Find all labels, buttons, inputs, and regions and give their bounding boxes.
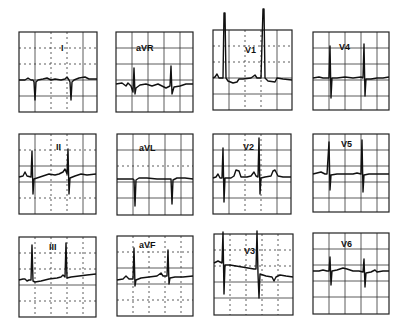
lead-panel-V5: V5 — [313, 134, 389, 212]
lead-panel-II: II — [19, 134, 96, 214]
lead-panel-V4: V4 — [313, 32, 389, 110]
ecg-strip-I — [19, 32, 97, 112]
lead-panel-V2: V2 — [213, 134, 291, 214]
lead-panel-V1: V1 — [213, 30, 292, 110]
lead-label-I: I — [61, 43, 64, 53]
lead-panel-aVF: aVF — [117, 236, 193, 316]
lead-label-aVF: aVF — [139, 240, 156, 250]
lead-panel-aVR: aVR — [116, 32, 193, 112]
lead-label-V4: V4 — [339, 42, 350, 52]
ecg-strip-V1 — [213, 30, 292, 110]
lead-label-aVL: aVL — [139, 143, 156, 153]
lead-label-V3: V3 — [244, 246, 255, 256]
lead-panel-V6: V6 — [313, 233, 389, 314]
ecg-strip-V4 — [313, 32, 389, 110]
ecg-strip-aVR — [116, 32, 193, 112]
lead-panel-I: I — [19, 32, 97, 112]
lead-label-aVR: aVR — [136, 43, 154, 53]
lead-panel-III: III — [19, 237, 96, 317]
lead-panel-aVL: aVL — [117, 134, 193, 215]
lead-label-V6: V6 — [341, 239, 352, 249]
lead-label-V1: V1 — [245, 45, 256, 55]
lead-label-II: II — [56, 142, 61, 152]
lead-panel-V3: V3 — [214, 234, 293, 315]
lead-label-V5: V5 — [341, 139, 352, 149]
lead-label-III: III — [49, 242, 57, 252]
lead-label-V2: V2 — [243, 142, 254, 152]
ecg-strip-III — [19, 237, 96, 317]
